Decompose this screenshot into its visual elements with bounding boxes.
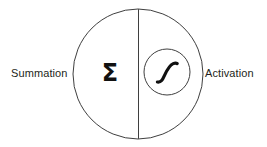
- sigmoid-curve-icon: [157, 63, 177, 82]
- sigma-symbol: Σ: [102, 59, 118, 87]
- neuron-node-graphic: Σ: [0, 0, 267, 147]
- neuron-diagram: Summation Activation Σ: [0, 0, 267, 147]
